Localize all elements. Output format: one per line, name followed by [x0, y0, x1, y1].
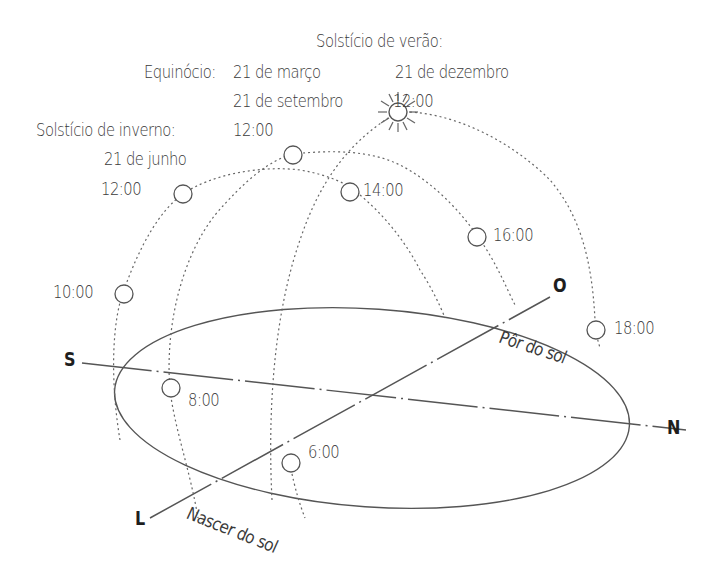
- winter-solstice-path: [114, 169, 360, 440]
- equinox-date-2: 21 de setembro: [233, 92, 343, 110]
- cardinal-west: O: [553, 275, 567, 295]
- sun-position-10: [115, 285, 133, 303]
- winter-solstice-date: 21 de junho: [104, 150, 186, 168]
- hour-label-10: 10:00: [53, 283, 93, 301]
- hour-label-16: 16:00: [493, 226, 533, 244]
- equinox-time: 12:00: [233, 121, 273, 139]
- hour-label-6: 6:00: [308, 443, 339, 461]
- cardinal-east: L: [135, 508, 145, 528]
- sun-position-winter-12: [174, 185, 192, 203]
- sun-position-18: [587, 321, 605, 339]
- cardinal-north: N: [667, 417, 680, 437]
- winter-solstice-title: Solstício de inverno:: [36, 121, 175, 139]
- summer-solstice-date: 21 de dezembro: [395, 63, 509, 81]
- horizon-ellipse: [108, 291, 637, 525]
- sun-position-8: [162, 379, 180, 397]
- hour-label-14: 14:00: [363, 181, 403, 199]
- sun-position-equinox-12: [284, 146, 302, 164]
- winter-solstice-time: 12:00: [101, 180, 141, 198]
- summer-solstice-title: Solstício de verão:: [316, 32, 443, 50]
- summer-solstice-time: 12:00: [393, 92, 433, 110]
- equinox-date-1: 21 de março: [233, 63, 321, 81]
- sun-position-14: [341, 183, 359, 201]
- sun-position-6: [282, 454, 300, 472]
- sun-position-16: [468, 228, 486, 246]
- sun-path-diagram: [0, 0, 715, 584]
- hour-label-8: 8:00: [188, 391, 219, 409]
- equinox-path-lower: [170, 237, 515, 518]
- winter-path-lower: [360, 195, 445, 318]
- cardinal-south: S: [64, 349, 76, 369]
- hour-label-18: 18:00: [614, 319, 654, 337]
- equinox-title: Equinócio:: [144, 63, 216, 81]
